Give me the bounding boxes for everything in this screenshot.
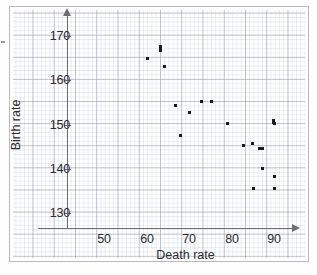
y-tick-label: 150 <box>50 119 70 131</box>
data-point <box>273 175 276 178</box>
data-point <box>226 122 229 125</box>
plot-area: 170 160 150 140 130 50 60 70 80 90 Death… <box>0 0 317 275</box>
x-tick-label: 70 <box>182 233 196 245</box>
data-point <box>261 167 264 170</box>
data-point <box>210 100 213 103</box>
data-point <box>251 142 254 145</box>
data-point <box>261 147 264 150</box>
data-point <box>146 57 149 60</box>
x-tick-label: 50 <box>97 233 111 245</box>
y-axis-arrow-icon <box>63 8 71 16</box>
data-point <box>242 144 245 147</box>
y-tick-label: 130 <box>50 207 70 219</box>
y-tick-label: 170 <box>50 30 70 42</box>
x-tick-label: 80 <box>225 233 239 245</box>
data-point <box>273 187 276 190</box>
data-point <box>163 65 166 68</box>
x-axis-line <box>38 228 294 229</box>
data-point <box>174 104 177 107</box>
x-tick-label: 90 <box>267 233 281 245</box>
data-point <box>179 134 182 137</box>
y-tick-label: 160 <box>50 74 70 86</box>
x-tick-label: 60 <box>140 233 154 245</box>
y-axis-title: Birth rate <box>9 85 23 165</box>
x-axis-arrow-icon <box>292 224 300 232</box>
scatter-plot-figure: 170 160 150 140 130 50 60 70 80 90 Death… <box>0 0 317 275</box>
data-point <box>159 49 162 52</box>
data-point <box>200 100 203 103</box>
data-point <box>252 187 255 190</box>
data-point <box>188 111 191 114</box>
x-axis-title: Death rate <box>0 248 317 262</box>
y-tick-label: 140 <box>50 163 70 175</box>
data-point <box>273 122 276 125</box>
